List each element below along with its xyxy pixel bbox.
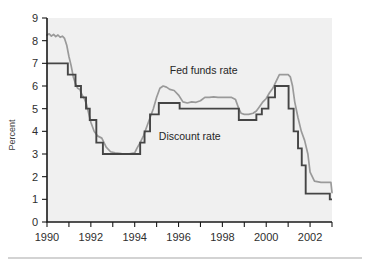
y-tick-label: 2 bbox=[32, 171, 38, 183]
x-tick-label: 2002 bbox=[298, 231, 322, 243]
y-tick-label: 0 bbox=[32, 216, 38, 228]
y-tick-label: 5 bbox=[32, 103, 38, 115]
x-tick-label: 1992 bbox=[79, 231, 103, 243]
x-axis-tick-labels: 1990199219941996199820002002 bbox=[35, 231, 323, 243]
y-tick-label: 7 bbox=[32, 57, 38, 69]
y-tick-label: 9 bbox=[32, 12, 38, 24]
x-tick-label: 1998 bbox=[210, 231, 234, 243]
y-tick-label: 3 bbox=[32, 148, 38, 160]
x-tick-label: 1990 bbox=[35, 231, 59, 243]
y-axis-title: Percent bbox=[7, 119, 17, 151]
y-tick-label: 1 bbox=[32, 193, 38, 205]
interest-rates-chart: Percent 0123456789 199019921994199619982… bbox=[0, 0, 370, 270]
series-annotation: Fed funds rate bbox=[170, 64, 238, 76]
x-tick-label: 1996 bbox=[166, 231, 190, 243]
y-tick-label: 4 bbox=[32, 125, 38, 137]
y-axis-tick-labels: 0123456789 bbox=[32, 12, 38, 228]
x-tick-label: 2000 bbox=[254, 231, 278, 243]
y-tick-label: 6 bbox=[32, 80, 38, 92]
y-tick-label: 8 bbox=[32, 35, 38, 47]
series-annotation: Discount rate bbox=[159, 130, 221, 142]
x-tick-label: 1994 bbox=[122, 231, 146, 243]
